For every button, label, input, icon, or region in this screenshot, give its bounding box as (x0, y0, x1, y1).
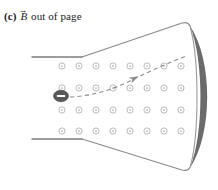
field-dot-center (180, 109, 182, 111)
trajectory-arrowhead (129, 74, 140, 84)
field-dot-center (146, 65, 148, 67)
field-dot-center (180, 87, 182, 89)
field-dot-center (129, 65, 131, 67)
magnetic-field-grid (59, 63, 184, 134)
field-dot-center (61, 130, 63, 132)
field-dot-center (146, 87, 148, 89)
particle-charge-sign (57, 95, 65, 97)
field-dot-center (146, 109, 148, 111)
field-dot-center (163, 109, 165, 111)
charged-particle (54, 90, 69, 102)
field-dot-center (78, 109, 80, 111)
field-dot-center (95, 87, 97, 89)
field-dot-center (61, 65, 63, 67)
field-dot-center (78, 130, 80, 132)
crt-tube-diagram (0, 0, 218, 190)
field-dot-center (129, 130, 131, 132)
tube-top-wall (82, 23, 191, 57)
tube-bottom-wall (82, 139, 191, 170)
field-dot-center (163, 87, 165, 89)
figure-container: (c) →B out of page (0, 0, 218, 190)
screen-outline (191, 30, 197, 164)
field-dot-center (129, 109, 131, 111)
field-dot-center (146, 130, 148, 132)
field-dot-center (95, 109, 97, 111)
field-dot-center (112, 109, 114, 111)
field-dot-center (180, 130, 182, 132)
field-dot-center (129, 87, 131, 89)
arrowhead-shape (129, 74, 140, 84)
field-dot-center (95, 65, 97, 67)
field-dot-center (61, 109, 63, 111)
field-dot-center (78, 65, 80, 67)
field-dot-center (163, 130, 165, 132)
phosphor-screen (190, 26, 207, 168)
field-dot-center (78, 87, 80, 89)
field-dot-center (112, 130, 114, 132)
field-dot-center (95, 130, 97, 132)
field-dot-center (180, 65, 182, 67)
field-dot-center (112, 65, 114, 67)
field-dot-center (61, 87, 63, 89)
